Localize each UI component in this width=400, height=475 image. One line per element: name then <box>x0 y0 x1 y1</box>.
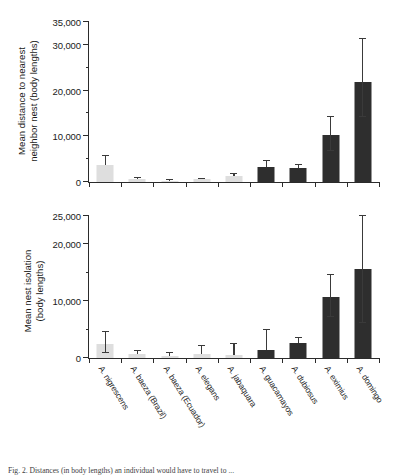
error-bar-cap-upper <box>295 337 302 338</box>
error-bar-cap-lower <box>359 322 366 323</box>
bar-slot[interactable] <box>186 22 218 182</box>
error-bar-line <box>298 165 299 168</box>
bar-slot[interactable] <box>218 22 250 182</box>
error-bar-line <box>233 174 234 177</box>
bar-slot[interactable] <box>250 216 282 358</box>
bar-slot[interactable] <box>315 22 347 182</box>
x-axis-tick <box>250 358 251 363</box>
bar[interactable] <box>290 343 307 358</box>
error-bar-cap-lower <box>327 150 334 151</box>
bar[interactable] <box>258 167 275 182</box>
figure-container: Mean distance to nearestneighbor nest (b… <box>0 0 400 475</box>
x-axis-tick <box>153 358 154 363</box>
error-bar-line <box>330 117 331 152</box>
bar[interactable] <box>225 355 242 358</box>
y-axis-tick-label: 0 <box>76 353 81 364</box>
y-axis-tick-label: 10,000 <box>53 131 81 142</box>
x-axis-tick <box>379 182 380 187</box>
x-axis-tick <box>315 358 316 363</box>
figure-caption: Fig. 2. Distances (in body lengths) an i… <box>8 466 392 475</box>
bar[interactable] <box>161 356 178 358</box>
error-bar-cap-lower <box>102 352 109 353</box>
bar-slot[interactable] <box>347 216 379 358</box>
x-axis-tick <box>282 358 283 363</box>
error-bar-cap-upper <box>166 352 173 353</box>
plot-area-top: 010,00020,00030,00035,000 <box>88 22 379 183</box>
bar[interactable] <box>129 354 146 358</box>
error-bar-cap-upper <box>230 173 237 174</box>
bar-slot[interactable] <box>315 216 347 358</box>
y-axis-tick <box>86 329 90 330</box>
x-axis-tick-label: A. jabaquara <box>226 364 259 409</box>
x-axis-tick-label: A. dubiosus <box>290 364 321 406</box>
bar-slot[interactable] <box>121 22 153 182</box>
error-bar-line <box>105 332 106 353</box>
y-axis-tick <box>86 272 90 273</box>
error-bar-cap-lower <box>359 116 366 117</box>
error-bar-cap-upper <box>327 116 334 117</box>
bar-slot[interactable] <box>282 216 314 358</box>
y-axis-tick-label: 10,000 <box>53 296 81 307</box>
y-axis-tick-label: 0 <box>76 177 81 188</box>
error-bar-line <box>137 178 138 179</box>
error-bar-line <box>233 344 234 355</box>
x-axis-tick <box>121 182 122 187</box>
bar[interactable] <box>290 168 307 182</box>
bar-slot[interactable] <box>121 216 153 358</box>
error-bar-line <box>330 275 331 317</box>
y-axis-tick <box>83 21 89 22</box>
bar[interactable] <box>193 354 210 358</box>
x-axis-tick <box>89 358 90 363</box>
y-axis-tick-label: 35,000 <box>53 17 81 28</box>
bar[interactable] <box>129 179 146 182</box>
error-bar-line <box>266 161 267 167</box>
bar-group-bottom <box>89 216 379 358</box>
x-axis-tick <box>89 182 90 187</box>
x-axis-tick-label: A. nigrescens <box>97 364 132 411</box>
error-bar-line <box>362 39 363 116</box>
bar-slot[interactable] <box>89 22 121 182</box>
error-bar-cap-upper <box>134 350 141 351</box>
bar-slot[interactable] <box>347 22 379 182</box>
bar[interactable] <box>225 176 242 182</box>
bar-slot[interactable] <box>153 216 185 358</box>
bar[interactable] <box>193 179 210 182</box>
error-bar-cap-upper <box>198 178 205 179</box>
x-axis-tick-label: A. elegans <box>193 364 222 402</box>
x-axis-tick <box>282 182 283 187</box>
bar-slot[interactable] <box>89 216 121 358</box>
bar-slot[interactable] <box>250 22 282 182</box>
x-axis-tick <box>379 358 380 363</box>
error-bar-cap-upper <box>198 345 205 346</box>
chart-panel-top: Mean distance to nearestneighbor nest (b… <box>0 14 400 196</box>
y-axis-tick-label: 20,000 <box>53 85 81 96</box>
y-axis-tick <box>83 44 89 45</box>
y-axis-tick <box>83 300 89 301</box>
error-bar-cap-upper <box>230 343 237 344</box>
bar-slot[interactable] <box>153 22 185 182</box>
bar-slot[interactable] <box>218 216 250 358</box>
y-axis-tick <box>83 135 89 136</box>
x-axis-tick-label: A. eximius <box>322 364 350 401</box>
bar-slot[interactable] <box>282 22 314 182</box>
x-axis-tick <box>186 182 187 187</box>
x-axis-tick <box>218 182 219 187</box>
bar[interactable] <box>258 350 275 358</box>
error-bar-cap-lower <box>327 316 334 317</box>
bar[interactable] <box>97 165 114 182</box>
error-bar-line <box>137 351 138 355</box>
x-axis-tick <box>186 358 187 363</box>
bar-group-top <box>89 22 379 182</box>
error-bar-cap-upper <box>359 38 366 39</box>
bar-slot[interactable] <box>186 216 218 358</box>
error-bar-cap-upper <box>263 329 270 330</box>
x-axis-tick-label: A. domingo <box>354 364 384 404</box>
y-axis-tick <box>83 90 89 91</box>
y-axis-tick-label: 30,000 <box>53 39 81 50</box>
error-bar-cap-upper <box>359 215 366 216</box>
y-axis-tick <box>86 67 90 68</box>
x-axis-tick <box>250 182 251 187</box>
error-bar-line <box>298 338 299 343</box>
x-axis-tick <box>121 358 122 363</box>
x-axis-tick <box>347 358 348 363</box>
